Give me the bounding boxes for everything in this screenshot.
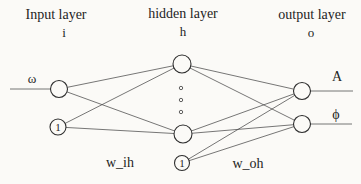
input-layer-title: Input layer bbox=[25, 7, 86, 22]
edge-hiddenbias-A bbox=[182, 91, 302, 163]
hidden-layer-title: hidden layer bbox=[148, 6, 218, 21]
output-node-phi bbox=[294, 116, 311, 133]
edge-hiddentop-A bbox=[182, 64, 302, 91]
amplitude-label: A bbox=[332, 69, 343, 84]
ellipsis-dot bbox=[179, 86, 182, 89]
omega-label: ω bbox=[28, 71, 37, 86]
output-node-A bbox=[294, 83, 311, 100]
hidden-node-top bbox=[173, 55, 191, 73]
edge-omega-hiddentop bbox=[59, 64, 182, 89]
edge-hiddenmid-A bbox=[183, 91, 302, 134]
diagram-canvas: Input layer i hidden layer h output laye… bbox=[0, 0, 361, 184]
edge-hiddentop-phi bbox=[182, 64, 302, 124]
ellipsis-dot bbox=[179, 98, 182, 101]
input-layer-symbol: i bbox=[62, 25, 66, 40]
output-layer-symbol: o bbox=[308, 25, 315, 40]
phase-label: ϕ bbox=[332, 107, 339, 122]
hidden-bias-label: 1 bbox=[179, 157, 185, 169]
neural-network-diagram: Input layer i hidden layer h output laye… bbox=[0, 0, 361, 184]
input-node-omega bbox=[51, 81, 68, 98]
edge-omega-hiddenmid bbox=[59, 89, 183, 134]
ellipsis-dot bbox=[179, 110, 182, 113]
hidden-node-mid bbox=[174, 125, 192, 143]
edge-hiddenmid-phi bbox=[183, 124, 302, 134]
hidden-ellipsis-dots bbox=[179, 86, 182, 113]
input-bias-label: 1 bbox=[55, 121, 61, 133]
weight-hidden-output-label: w_oh bbox=[232, 156, 263, 171]
edge-bias-hiddenmid bbox=[58, 127, 183, 134]
hidden-layer-symbol: h bbox=[180, 24, 187, 39]
weight-input-hidden-label: w_ih bbox=[106, 155, 134, 170]
output-layer-title: output layer bbox=[278, 7, 346, 22]
